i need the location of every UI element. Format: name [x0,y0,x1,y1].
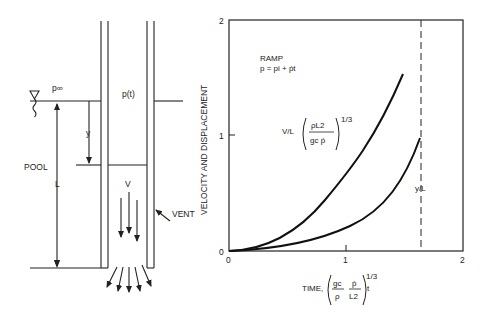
x-frac1-den: ρ [335,292,340,301]
x-frac2-den: L2 [349,292,358,301]
right-paren [336,118,339,150]
x-axis-label: TIME, gc ρ ṗ L2 1/3 t [302,272,378,305]
left-paren [303,118,306,150]
x-tick-label-2: 2 [460,255,465,265]
diagram-labels: p∞ p(t) y POOL L V VENT [24,83,195,219]
figure-canvas: p∞ p(t) y POOL L V VENT 2 1 0 0 1 2 VELO… [0,0,490,329]
vent-pointer-arrow [156,210,170,221]
label-p-of-t: p(t) [122,89,135,99]
displacement-label: y/L [415,184,426,193]
ramp-annotation: RAMP p = pi + ṗt [260,54,296,73]
y-tick-label-0: 0 [219,247,224,257]
label-pool: POOL [24,162,48,172]
velocity-exponent: 1/3 [341,115,353,124]
chart: 2 1 0 0 1 2 VELOCITY AND DISPLACEMENT RA… [199,16,465,305]
velocity-label: V/L ρL2 gc ṗ 1/3 [282,115,353,150]
free-surface-triangle-icon [30,91,39,99]
label-L: L [55,179,60,189]
x-frac1-num: gc [333,279,341,288]
label-y: y [86,128,91,138]
velocity-frac-den: gc ṗ [310,136,326,145]
y-axis-label: VELOCITY AND DISPLACEMENT [199,85,209,215]
y-tick-label-1: 1 [219,131,224,141]
ramp-equation: p = pi + ṗt [260,64,296,73]
tick-labels: 2 1 0 0 1 2 [219,16,465,265]
vent-pool-diagram [30,21,183,292]
velocity-curve [229,74,403,251]
label-vent: VENT [172,209,195,219]
displacement-curve [229,138,420,251]
x-axis-label-prefix: TIME, [302,284,323,293]
discharge-arrow [118,267,123,291]
velocity-frac-num: ρL2 [311,121,325,130]
free-surface-squiggle-icon [33,99,36,117]
x-axis-exponent: 1/3 [366,272,378,281]
discharge-arrow [135,267,140,291]
x-frac2-num: ṗ [352,279,357,288]
x-axis-suffix: t [367,284,370,293]
x-tick-label-1: 1 [343,255,348,265]
x-left-paren [328,275,331,305]
discharge-arrow [107,267,117,287]
ramp-title: RAMP [260,54,283,63]
label-V: V [125,179,131,189]
label-p-infinity: p∞ [52,83,63,93]
x-tick-label-0: 0 [226,255,231,265]
y-tick-label-2: 2 [219,16,224,26]
velocity-label-prefix: V/L [282,127,295,136]
